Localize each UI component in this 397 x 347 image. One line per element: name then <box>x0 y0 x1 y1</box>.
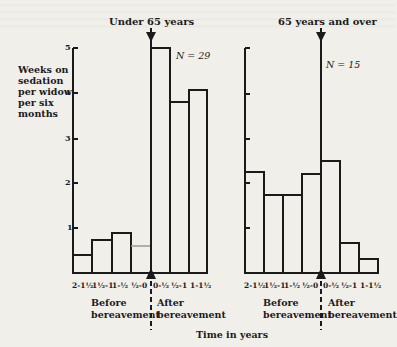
bar <box>92 240 112 273</box>
x-category-label: 1-½ <box>284 281 300 290</box>
bar <box>112 233 131 273</box>
bar <box>283 195 302 273</box>
x-category-label: ½-1 <box>171 281 187 290</box>
x-axis-label: Time in years <box>196 329 268 340</box>
x-category-label: 2-1½ <box>244 281 265 290</box>
bar <box>340 243 359 273</box>
x-category-label: 1-1½ <box>190 281 211 290</box>
left-n-annotation: N = 29 <box>176 50 210 61</box>
down-arrow-icon <box>146 32 156 42</box>
bar <box>359 259 378 273</box>
before-bereavement-label: Before bereavement <box>91 297 160 321</box>
bar <box>245 172 264 273</box>
bar <box>73 255 92 273</box>
bar <box>264 195 283 273</box>
after-bereavement-label: After bereavement <box>157 297 226 321</box>
x-category-label: 1-½ <box>112 281 128 290</box>
after-label-line: After <box>157 297 226 309</box>
before-bereavement-label: Before bereavement <box>263 297 332 321</box>
before-label-line: Before <box>263 297 332 309</box>
after-label-line: After <box>328 297 397 309</box>
x-category-label: 1½-1 <box>264 281 285 290</box>
x-category-label: ½-1 <box>341 281 357 290</box>
x-category-label: ½-0 <box>302 281 318 290</box>
after-label-line: bereavement <box>157 309 226 321</box>
after-bereavement-label: After bereavement <box>328 297 397 321</box>
before-label-line: Before <box>91 297 160 309</box>
bar <box>302 174 321 273</box>
bar <box>170 102 189 273</box>
x-category-label: 2-1½ <box>72 281 93 290</box>
down-arrow-icon <box>316 32 326 42</box>
after-label-line: bereavement <box>328 309 397 321</box>
x-category-label: ½-0 <box>131 281 147 290</box>
bar <box>321 161 340 273</box>
right-n-annotation: N = 15 <box>326 59 360 70</box>
before-label-line: bereavement <box>91 309 160 321</box>
x-category-label: 1½-1 <box>92 281 113 290</box>
x-category-label: 1-1½ <box>360 281 381 290</box>
bar <box>189 90 207 273</box>
before-label-line: bereavement <box>263 309 332 321</box>
bar <box>151 48 170 273</box>
x-category-label: 0-½ <box>153 281 169 290</box>
x-category-label: 0-½ <box>323 281 339 290</box>
